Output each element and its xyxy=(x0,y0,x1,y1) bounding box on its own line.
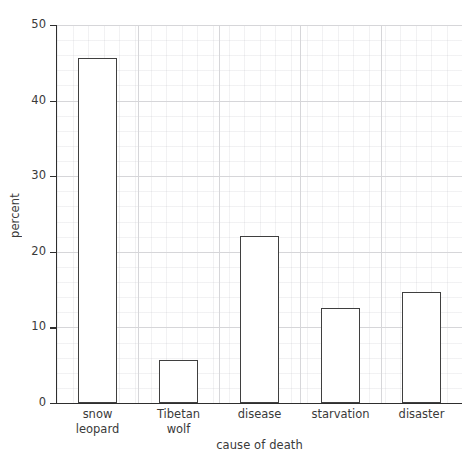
x-tick-label: Tibetan wolf xyxy=(138,407,219,436)
y-tick-mark xyxy=(50,176,56,177)
y-axis-label: percent xyxy=(8,186,28,246)
y-tick-mark xyxy=(50,252,56,253)
x-tick-label: snow leopard xyxy=(57,407,138,436)
gridline-horizontal xyxy=(57,101,462,102)
y-tick-label: 40 xyxy=(6,95,46,107)
gridline-vertical xyxy=(138,25,139,403)
gridline-vertical xyxy=(219,25,220,403)
x-tick-label: starvation xyxy=(300,407,381,422)
bar-chart-figure: percent 01020304050 snow leopardTibetan … xyxy=(0,0,475,458)
bar xyxy=(402,292,440,403)
x-tick-label: disaster xyxy=(381,407,462,422)
y-tick-label: 20 xyxy=(6,246,46,258)
bar xyxy=(78,58,116,403)
bar xyxy=(321,308,359,403)
x-axis-spine xyxy=(56,403,462,404)
y-tick-mark xyxy=(50,327,56,328)
x-axis-label: cause of death xyxy=(57,438,462,452)
y-axis-spine xyxy=(56,25,57,404)
gridline-vertical xyxy=(300,25,301,403)
y-tick-mark xyxy=(50,25,56,26)
x-tick-label: disease xyxy=(219,407,300,422)
y-tick-mark xyxy=(50,403,56,404)
y-tick-label: 30 xyxy=(6,170,46,182)
y-tick-label: 0 xyxy=(6,397,46,409)
gridline-horizontal xyxy=(57,25,462,26)
bar xyxy=(240,236,278,403)
plot-area xyxy=(57,25,462,403)
bar xyxy=(159,360,197,403)
gridline-horizontal xyxy=(57,176,462,177)
gridline-vertical xyxy=(381,25,382,403)
y-tick-mark xyxy=(50,101,56,102)
y-tick-label: 50 xyxy=(6,19,46,31)
y-tick-label: 10 xyxy=(6,321,46,333)
